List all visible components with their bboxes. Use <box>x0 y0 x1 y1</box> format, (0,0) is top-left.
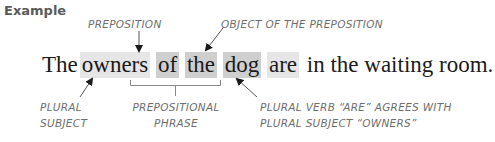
plural-subject-label-line2: SUBJECT <box>40 116 87 130</box>
plural-subject-label-line1: PLURAL <box>40 100 82 114</box>
prepositional-phrase-label-line1: PREPOSITIONAL <box>128 100 224 114</box>
verb-agreement-label-line2: PLURAL SUBJECT “OWNERS” <box>260 116 417 130</box>
subject-arrow-icon <box>80 79 92 97</box>
prepositional-phrase-label-line2: PHRASE <box>128 116 224 130</box>
verb-agreement-label-line1: PLURAL VERB “ARE” AGREES WITH <box>260 100 452 114</box>
object-arrow-icon <box>206 28 223 50</box>
verb-arrow-icon <box>237 79 257 97</box>
phrase-bracket-icon <box>131 80 221 86</box>
